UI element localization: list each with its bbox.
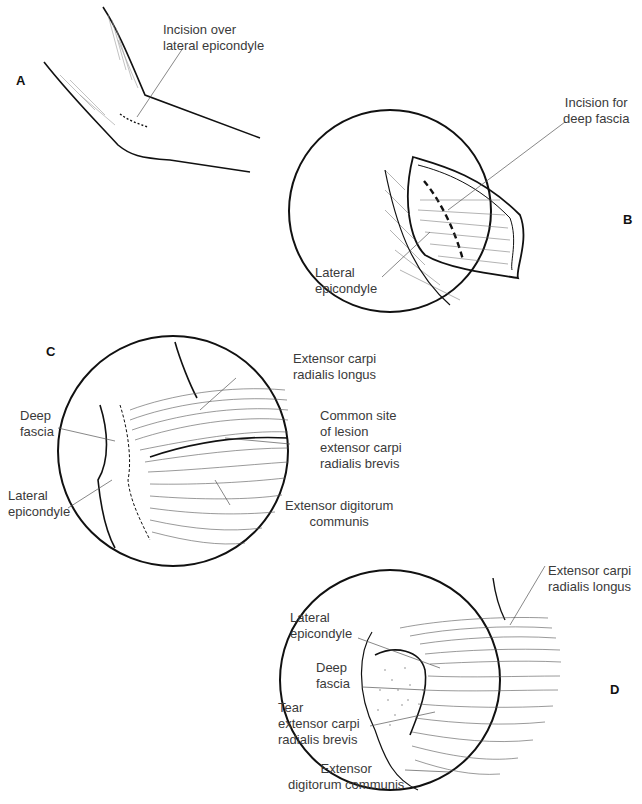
label-b-lateral-epicondyle: Lateral epicondyle [315,265,377,297]
panel-c-muscle-drawing [58,336,290,566]
label-d-extensor-carpi-radialis-longus: Extensor carpi radialis longus [548,563,631,595]
label-d-lateral-epicondyle: Lateral epicondyle [290,610,352,642]
label-c-common-site-of-lesion: Common site of lesion extensor carpi rad… [320,408,402,472]
label-incision-over-lateral-epicondyle: Incision over lateral epicondyle [163,22,264,54]
label-c-extensor-digitorum-communis: Extensor digitorum communis [285,498,393,530]
panel-letter-c: C [46,344,55,359]
label-incision-for-deep-fascia: Incision for deep fascia [563,95,630,127]
panel-letter-b: B [623,212,632,227]
label-d-extensor-digitorum-communis: Extensor digitorum communis [288,761,404,793]
panel-letter-a: A [16,73,25,88]
label-c-lateral-epicondyle: Lateral epicondyle [8,488,70,520]
label-c-deep-fascia: Deep fascia [20,408,54,440]
label-d-tear-extensor-carpi-radialis-brevis: Tear extensor carpi radialis brevis [278,700,360,748]
label-c-extensor-carpi-radialis-longus: Extensor carpi radialis longus [293,351,376,383]
label-d-deep-fascia: Deep fascia [316,660,350,692]
panel-letter-d: D [610,682,619,697]
